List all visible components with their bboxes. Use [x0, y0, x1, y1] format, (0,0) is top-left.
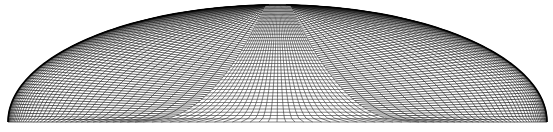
mesh-svg — [0, 0, 553, 132]
mesh-diagram — [0, 0, 553, 132]
